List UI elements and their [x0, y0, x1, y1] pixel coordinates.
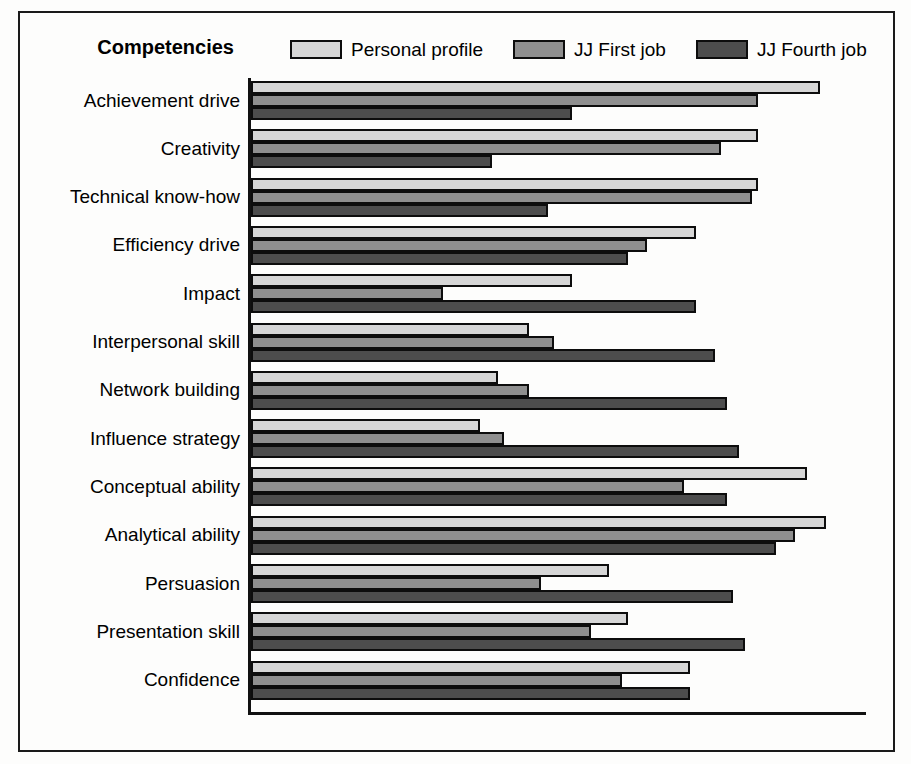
- bar: [251, 577, 541, 590]
- bar: [251, 529, 795, 542]
- bar: [251, 107, 572, 120]
- category-label: Technical know-how: [8, 187, 240, 206]
- bar: [251, 467, 807, 480]
- bar: [251, 349, 715, 362]
- bar: [251, 564, 609, 577]
- bar: [251, 419, 480, 432]
- legend-entry: JJ First job: [513, 40, 696, 59]
- bar: [251, 445, 739, 458]
- legend-entry: JJ Fourth job: [696, 40, 867, 59]
- bar-group: [251, 178, 869, 217]
- legend-label: JJ First job: [574, 40, 666, 59]
- bar: [251, 142, 721, 155]
- category-label: Influence strategy: [8, 429, 240, 448]
- bar: [251, 480, 684, 493]
- plot-area: [248, 78, 866, 722]
- bar-group: [251, 419, 869, 458]
- category-label: Interpersonal skill: [8, 332, 240, 351]
- chart-figure: Competencies Personal profileJJ First jo…: [0, 0, 911, 764]
- bar: [251, 274, 572, 287]
- bar: [251, 287, 443, 300]
- bar: [251, 384, 529, 397]
- bar: [251, 661, 690, 674]
- bar: [251, 81, 820, 94]
- category-label: Confidence: [8, 670, 240, 689]
- bar: [251, 252, 628, 265]
- bar: [251, 638, 745, 651]
- category-label: Efficiency drive: [8, 235, 240, 254]
- bar: [251, 239, 647, 252]
- bar: [251, 323, 529, 336]
- bar-group: [251, 467, 869, 506]
- legend-swatch-personal-profile: [290, 40, 342, 59]
- category-label: Impact: [8, 284, 240, 303]
- legend-swatch-jj-fourth-job: [696, 40, 748, 59]
- page-title: Competencies: [0, 36, 234, 59]
- bar-group: [251, 612, 869, 651]
- category-axis-labels: Achievement driveCreativityTechnical kno…: [0, 78, 240, 722]
- bar: [251, 493, 727, 506]
- bar-group: [251, 371, 869, 410]
- legend-swatch-jj-first-job: [513, 40, 565, 59]
- bar-group: [251, 226, 869, 265]
- bar: [251, 155, 492, 168]
- category-label: Achievement drive: [8, 91, 240, 110]
- category-label: Creativity: [8, 139, 240, 158]
- bar: [251, 191, 752, 204]
- bar: [251, 129, 758, 142]
- x-axis-line: [248, 712, 866, 715]
- bar: [251, 178, 758, 191]
- bar: [251, 397, 727, 410]
- bar-group: [251, 323, 869, 362]
- bar: [251, 612, 628, 625]
- category-label: Persuasion: [8, 574, 240, 593]
- bar: [251, 336, 554, 349]
- bar: [251, 300, 696, 313]
- bar: [251, 542, 776, 555]
- legend-entry: Personal profile: [290, 40, 513, 59]
- bar-group: [251, 274, 869, 313]
- bar-group: [251, 564, 869, 603]
- bar: [251, 204, 548, 217]
- bar: [251, 94, 758, 107]
- bar: [251, 371, 498, 384]
- bar-group: [251, 516, 869, 555]
- category-label: Conceptual ability: [8, 477, 240, 496]
- bar: [251, 625, 591, 638]
- bar: [251, 674, 622, 687]
- chart-legend: Personal profileJJ First jobJJ Fourth jo…: [290, 34, 867, 64]
- category-label: Network building: [8, 380, 240, 399]
- bar-group: [251, 661, 869, 700]
- bar: [251, 687, 690, 700]
- bar: [251, 226, 696, 239]
- bar-group: [251, 129, 869, 168]
- bar-group: [251, 81, 869, 120]
- legend-label: Personal profile: [351, 40, 483, 59]
- category-label: Analytical ability: [8, 525, 240, 544]
- bar: [251, 590, 733, 603]
- category-label: Presentation skill: [8, 622, 240, 641]
- bar: [251, 432, 504, 445]
- bar: [251, 516, 826, 529]
- legend-label: JJ Fourth job: [757, 40, 867, 59]
